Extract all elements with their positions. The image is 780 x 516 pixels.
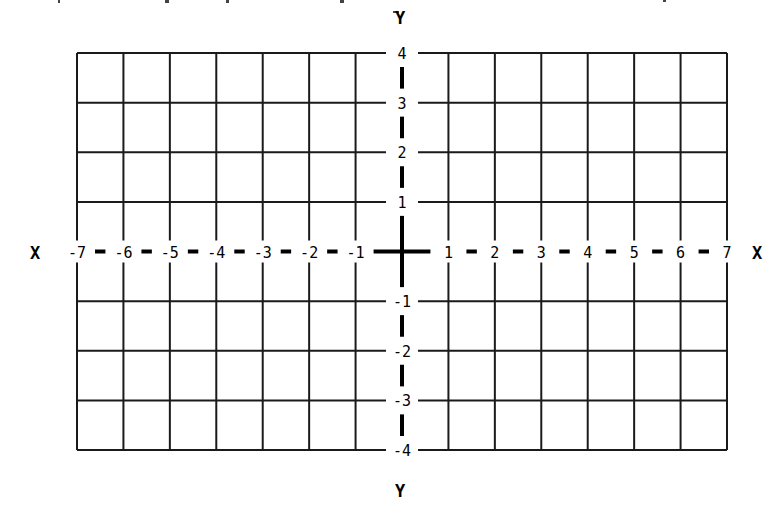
x-tick-label: -2 xyxy=(300,244,318,262)
y-tick-label: 3 xyxy=(397,95,406,113)
x-axis-label-right: X xyxy=(752,243,763,263)
y-tick-label: 2 xyxy=(397,144,406,162)
y-tick-label: 4 xyxy=(397,45,406,63)
x-tick-label: 2 xyxy=(490,244,499,262)
x-axis-label-left: X xyxy=(30,243,41,263)
grid-svg: -7-6-5-4-3-2-112345674321-1-2-3-4 Y Y X … xyxy=(0,0,780,516)
y-tick-label: -3 xyxy=(393,392,411,410)
x-tick-label: 1 xyxy=(444,244,453,262)
axes xyxy=(95,67,709,436)
y-tick-label: -4 xyxy=(393,442,411,460)
x-tick-label: -7 xyxy=(68,244,86,262)
x-tick-label: 5 xyxy=(630,244,639,262)
axis-letters: Y Y X X xyxy=(30,8,763,501)
x-tick-label: -4 xyxy=(207,244,225,262)
cropped-text-fragments xyxy=(58,0,666,13)
y-tick-label: -2 xyxy=(393,343,411,361)
x-tick-label: -6 xyxy=(114,244,132,262)
coordinate-plane: -7-6-5-4-3-2-112345674321-1-2-3-4 Y Y X … xyxy=(0,0,780,516)
x-tick-label: -3 xyxy=(254,244,272,262)
x-tick-label: 3 xyxy=(537,244,546,262)
y-tick-label: 1 xyxy=(397,194,406,212)
x-tick-label: 6 xyxy=(676,244,685,262)
y-tick-label: -1 xyxy=(393,293,411,311)
x-tick-label: -1 xyxy=(347,244,365,262)
y-axis-label-bottom: Y xyxy=(395,481,406,501)
x-tick-label: 4 xyxy=(583,244,592,262)
x-tick-label: 7 xyxy=(722,244,731,262)
y-axis-label-top: Y xyxy=(395,8,406,28)
x-tick-label: -5 xyxy=(161,244,179,262)
